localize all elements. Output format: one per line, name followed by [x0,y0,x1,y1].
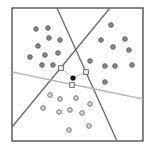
diagram-frame [12,8,143,141]
data-point [48,93,53,98]
data-point [127,48,132,53]
cluster-diagram [0,0,153,154]
data-point [28,55,33,60]
nearest-neighbor-marker [84,70,89,75]
data-point [88,102,93,107]
data-point [88,59,93,64]
data-point [46,26,51,31]
data-point [34,27,39,32]
data-point [58,38,63,43]
data-point [130,63,135,68]
data-point [40,63,45,68]
data-point [57,110,62,115]
data-point [80,111,85,116]
data-point [74,96,79,101]
data-point [111,45,116,50]
data-point [87,124,92,129]
data-point [113,64,118,69]
data-point [36,44,41,49]
query-point [70,75,75,80]
data-point [51,63,56,68]
data-point [58,97,63,102]
data-point [68,108,73,113]
nearest-neighbor-marker [59,66,64,71]
data-point [43,53,48,58]
data-point [47,36,52,41]
data-point [67,128,72,133]
data-point [109,23,114,28]
data-point [103,80,108,85]
data-point [99,38,104,43]
data-point [41,106,46,111]
data-point [56,51,61,56]
data-point [123,37,128,42]
data-point [103,64,108,69]
nearest-neighbor-marker [70,83,75,88]
